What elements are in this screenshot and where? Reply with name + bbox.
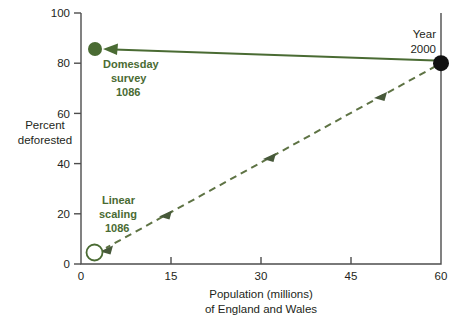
domesday-solid-line	[114, 50, 435, 61]
domesday-label-line3: 1086	[116, 86, 140, 98]
x-tick-label-30: 30	[255, 270, 268, 282]
x-tick-label-0: 0	[78, 270, 84, 282]
y-tick-label-0: 0	[64, 258, 70, 270]
domesday-arrowhead	[103, 44, 118, 56]
domesday-label-line1: Domesday	[103, 58, 160, 70]
y-axis-ticks	[74, 13, 81, 264]
year-2000-label-line2: 2000	[410, 43, 436, 55]
x-tick-label-45: 45	[345, 270, 358, 282]
linear-scaling-arrow	[100, 66, 436, 255]
x-axis-title-line2: of England and Wales	[205, 303, 317, 315]
y-axis-title-line1: Percent	[25, 119, 65, 131]
x-axis-title-line1: Population (millions)	[209, 288, 313, 300]
year-2000-point	[433, 55, 449, 71]
y-tick-label-20: 20	[57, 208, 70, 220]
linear-scaling-point	[87, 245, 103, 261]
linear-scaling-label-line1: Linear	[102, 194, 136, 206]
x-tick-label-60: 60	[435, 270, 448, 282]
linear-scaling-label: Linear scaling 1086	[99, 194, 137, 234]
domesday-label: Domesday survey 1086	[103, 58, 160, 98]
x-tick-label-15: 15	[165, 270, 178, 282]
linear-scaling-arrowhead-mid3	[374, 92, 387, 101]
y-tick-label-80: 80	[57, 57, 70, 69]
domesday-survey-point	[88, 42, 102, 56]
y-axis-title: Percent deforested	[18, 119, 72, 146]
y-axis-title-line2: deforested	[18, 134, 72, 146]
y-tick-label-100: 100	[51, 7, 70, 19]
year-2000-label-line1: Year	[413, 28, 436, 40]
y-tick-label-40: 40	[57, 158, 70, 170]
linear-scaling-label-line3: 1086	[105, 222, 129, 234]
x-axis-title: Population (millions) of England and Wal…	[205, 288, 317, 315]
chart-canvas: 0 20 40 60 80 100 0 15 30 45 60 Percent …	[0, 0, 459, 322]
x-axis-ticks	[171, 257, 351, 264]
deforestation-population-chart: 0 20 40 60 80 100 0 15 30 45 60 Percent …	[0, 0, 459, 322]
year-2000-label: Year 2000	[410, 28, 436, 55]
y-tick-label-60: 60	[57, 108, 70, 120]
domesday-label-line2: survey	[111, 72, 147, 84]
linear-scaling-label-line2: scaling	[99, 208, 137, 220]
x-axis-tick-labels: 0 15 30 45 60	[78, 270, 448, 282]
